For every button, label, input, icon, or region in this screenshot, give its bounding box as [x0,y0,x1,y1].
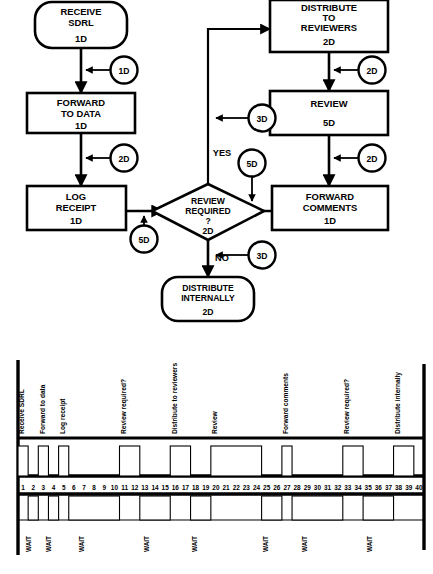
node-distribute-internally-line1: DISTRIBUTE [182,283,234,293]
branch-label-no: NO [215,253,229,263]
gantt-axis-number: 18 [192,484,200,491]
node-distribute-to-reviewers-line3: REVIEWERS [301,22,357,33]
node-receive-sdrl-line2: SDRL [68,17,94,28]
node-review-duration: 5D [323,117,335,128]
gantt-activity-label: Review required? [120,379,128,434]
gantt-content: Receive SDRLForward to dataLog receiptRe… [18,360,424,555]
node-receive-sdrl-line1: RECEIVE [60,6,101,17]
node-forward-comments-line1: FORWARD [306,191,354,202]
gantt-axis-number: 6 [72,484,76,491]
lag-bubble-2d-review-label: 2D [367,66,378,76]
lag-bubble-2d-comments[interactable]: 2D [359,145,386,172]
gantt-axis-number: 3 [42,484,46,491]
gantt-axis-number: 7 [82,484,86,491]
lag-bubble-3d-no-label: 3D [257,251,268,261]
gantt-axis-number: 13 [141,484,149,491]
gantt-activity-bar[interactable] [211,446,262,476]
lag-bubble-5d-log[interactable]: 5D [131,226,158,253]
gantt-activity-label: Review [211,410,218,434]
gantt-axis-number: 4 [52,484,56,491]
gantt-activity-bar[interactable] [38,446,48,476]
gantt-axis-number: 38 [395,484,403,491]
node-log-receipt[interactable]: LOG RECEIPT 1D [27,186,126,230]
gantt-wait-label: WAIT [262,536,269,552]
lag-bubble-2d-review[interactable]: 2D [359,57,386,84]
lag-bubble-1d[interactable]: 1D [111,57,138,84]
gantt-axis-number: 37 [385,484,393,491]
gantt-wait-box[interactable] [28,496,38,520]
lag-bubble-1d-label: 1D [119,66,130,76]
gantt-activity-bar[interactable] [59,446,69,476]
gantt-axis-number: 40 [415,484,423,491]
gantt-wait-box[interactable] [292,496,343,520]
node-forward-comments[interactable]: FORWARD COMMENTS 1D [272,186,388,230]
node-forward-to-data-line2: TO DATA [61,108,101,119]
gantt-wait-box[interactable] [140,496,170,520]
gantt-activity-label: Review required? [343,379,351,434]
node-forward-comments-duration: 1D [324,215,336,226]
node-forward-to-data[interactable]: FORWARD TO DATA 1D [27,93,135,133]
lag-bubble-2d-log[interactable]: 2D [111,145,138,172]
gantt-activity-bar[interactable] [170,446,190,476]
gantt-wait-box[interactable] [191,496,211,520]
gantt-axis-number: 26 [273,484,281,491]
node-log-receipt-duration: 1D [70,215,82,226]
gantt-wait-box[interactable] [48,496,58,520]
gantt-wait-label: WAIT [366,536,373,552]
node-review-required[interactable]: REVIEW REQUIRED ? 2D [152,184,264,240]
gantt-axis-number: 24 [253,484,261,491]
gantt-wait-label: WAIT [25,536,32,552]
node-review-required-line2: REQUIRED [185,206,230,216]
gantt-activity-label: Distribute internally [394,372,402,434]
gantt-activity-bar[interactable] [282,446,292,476]
gantt-wait-box[interactable] [363,496,393,520]
gantt-axis-number: 8 [92,484,96,491]
gantt-axis-number: 19 [202,484,210,491]
gantt-activity-bar[interactable] [394,446,414,476]
gantt-axis-number: 23 [243,484,251,491]
node-forward-to-data-line1: FORWARD [57,97,105,108]
lag-bubble-2d-log-label: 2D [119,154,130,164]
node-review-required-duration: 2D [203,226,214,236]
lag-bubble-3d-no[interactable]: 3D [249,242,276,269]
lag-bubble-5d-log-label: 5D [139,235,150,245]
gantt-activity-label: Forward comments [282,373,289,434]
gantt-activity-bar[interactable] [343,446,363,476]
gantt-axis-number: 33 [344,484,352,491]
node-forward-to-data-duration: 1D [75,120,87,131]
gantt-wait-label: WAIT [191,536,198,552]
node-forward-comments-line2: COMMENTS [303,202,358,213]
gantt-wait-box[interactable] [262,496,282,520]
gantt-activity-bar[interactable] [18,446,28,476]
node-receive-sdrl[interactable]: RECEIVE SDRL 1D [35,2,127,48]
node-distribute-internally-line2: INTERNALLY [181,293,235,303]
node-distribute-to-reviewers[interactable]: DISTRIBUTE TO REVIEWERS 2D [270,0,388,52]
lag-bubble-3d-yes-label: 3D [257,114,268,124]
gantt-axis-number: 27 [283,484,291,491]
gantt-axis-number: 29 [304,484,312,491]
lag-bubble-5d-comments-label: 5D [247,159,258,169]
gantt-axis-number: 39 [405,484,413,491]
lag-bubble-3d-yes[interactable]: 3D [249,105,276,132]
lag-bubble-5d-comments[interactable]: 5D [239,150,266,177]
gantt-axis-number: 20 [212,484,220,491]
gantt-axis-number: 25 [263,484,271,491]
branch-label-yes: YES [213,148,231,158]
node-review[interactable]: REVIEW 5D [270,91,388,135]
gantt-wait-label: WAIT [301,536,308,552]
gantt-axis-number: 10 [111,484,119,491]
gantt-axis-number: 34 [354,484,362,491]
node-review-required-line3: ? [205,216,210,226]
gantt-axis-number: 28 [294,484,302,491]
gantt-timeline: Receive SDRLForward to dataLog receiptRe… [0,340,433,574]
node-review-line1: REVIEW [311,98,348,109]
gantt-axis-number: 36 [375,484,383,491]
gantt-wait-label: WAIT [45,536,52,552]
gantt-activity-label: Distribute to reviewers [171,363,178,434]
node-log-receipt-line1: LOG [66,191,86,202]
node-distribute-internally[interactable]: DISTRIBUTE INTERNALLY 2D [162,277,254,321]
gantt-wait-box[interactable] [69,496,120,520]
gantt-activity-label: Log receipt [59,398,67,434]
gantt-activity-bar[interactable] [120,446,140,476]
flowchart-diagram: RECEIVE SDRL 1D FORWARD TO DATA 1D LOG R… [0,0,433,340]
